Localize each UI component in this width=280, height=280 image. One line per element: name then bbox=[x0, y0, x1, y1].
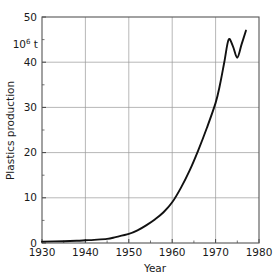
y-axis-unit-label: 106 t bbox=[13, 38, 38, 50]
x-axis-tick-labels: 193019401950196019701980 bbox=[29, 246, 273, 258]
y-tick-label: 10 bbox=[24, 191, 37, 203]
x-tick-label: 1960 bbox=[159, 246, 186, 258]
y-tick-label: 50 bbox=[24, 11, 37, 23]
y-axis-title: Plastics production bbox=[4, 81, 16, 180]
x-tick-label: 1950 bbox=[115, 246, 142, 258]
x-tick-label: 1930 bbox=[29, 246, 56, 258]
x-tick-label: 1980 bbox=[246, 246, 273, 258]
x-tick-label: 1940 bbox=[72, 246, 99, 258]
y-tick-label: 40 bbox=[24, 56, 37, 68]
x-tick-label: 1970 bbox=[202, 246, 229, 258]
chart-canvas: 01020304050 193019401950196019701980 106… bbox=[0, 0, 280, 280]
y-tick-label: 20 bbox=[24, 146, 37, 158]
plastics-production-chart: 01020304050 193019401950196019701980 106… bbox=[0, 0, 280, 280]
x-axis-title: Year bbox=[143, 262, 167, 274]
y-tick-label: 30 bbox=[24, 101, 37, 113]
